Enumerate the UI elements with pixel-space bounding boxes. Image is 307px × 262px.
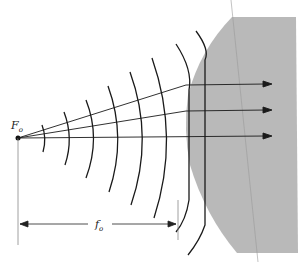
distance-label: fo: [94, 218, 103, 233]
source-label: Fo: [10, 119, 23, 134]
wavefronts: [42, 31, 206, 255]
lens-body: [186, 17, 298, 253]
lens-wavefront-diagram: Fo fo: [0, 0, 307, 262]
